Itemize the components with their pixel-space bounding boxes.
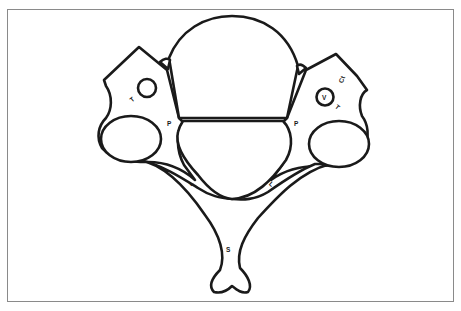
left-foramen-transversarium (138, 79, 156, 97)
vertebra-diagram: T P L P L V T Ct S (0, 0, 461, 311)
label-spinous-s: S (226, 246, 231, 253)
label-right-p: P (294, 120, 299, 127)
right-articular-facet (309, 121, 369, 167)
label-left-p: P (167, 120, 172, 127)
vertebral-body (169, 16, 298, 118)
left-articular-facet (101, 116, 161, 162)
label-right-v: V (322, 94, 327, 101)
